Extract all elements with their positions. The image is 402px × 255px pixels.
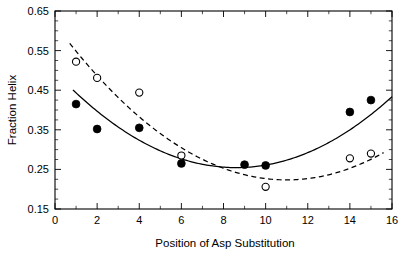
fraction-helix-scatter-plot: 0246810121416 0.150.250.350.450.550.65 P… <box>0 0 402 255</box>
data-point-open <box>72 58 79 65</box>
y-tick-label: 0.35 <box>28 124 49 136</box>
y-tick-label: 0.15 <box>28 203 49 215</box>
data-point-open <box>94 74 101 81</box>
x-tick-label: 0 <box>52 214 58 226</box>
x-tick-label: 2 <box>94 214 100 226</box>
chart-figure: 0246810121416 0.150.250.350.450.550.65 P… <box>0 0 402 255</box>
data-point-filled <box>135 124 143 132</box>
x-tick-label: 14 <box>344 214 356 226</box>
data-point-filled <box>367 96 375 104</box>
y-tick-label: 0.55 <box>28 45 49 57</box>
y-tick-label: 0.45 <box>28 84 49 96</box>
data-point-filled <box>72 100 80 108</box>
data-point-open <box>346 155 353 162</box>
x-tick-label: 4 <box>136 214 142 226</box>
data-point-filled <box>241 161 249 169</box>
data-point-filled <box>93 125 101 133</box>
y-tick-label: 0.65 <box>28 5 49 17</box>
data-point-open <box>262 183 269 190</box>
data-point-open <box>367 150 374 157</box>
x-tick-label: 10 <box>260 214 272 226</box>
x-tick-label: 12 <box>302 214 314 226</box>
x-tick-label: 6 <box>178 214 184 226</box>
y-tick-label: 0.25 <box>28 163 49 175</box>
x-tick-label: 16 <box>386 214 398 226</box>
x-tick-label: 8 <box>220 214 226 226</box>
data-point-filled <box>262 162 270 170</box>
x-axis-title: Position of Asp Substitution <box>155 237 294 249</box>
y-axis-title: Fraction Helix <box>6 75 18 146</box>
data-point-open <box>136 89 143 96</box>
data-point-filled <box>346 108 354 116</box>
data-point-open <box>178 152 185 159</box>
chart-background <box>0 0 402 255</box>
data-point-filled <box>177 160 185 168</box>
